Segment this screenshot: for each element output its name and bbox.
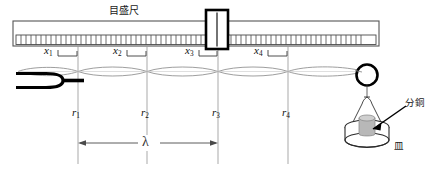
measuring-ruler — [13, 21, 379, 46]
figure-canvas — [0, 0, 438, 170]
label-x4: x4 — [254, 44, 263, 58]
label-x2: x2 — [113, 44, 122, 58]
node-guide-lines — [78, 46, 288, 164]
pulley — [355, 65, 378, 98]
label-x1: x1 — [44, 44, 53, 58]
x-measure-brackets — [58, 50, 287, 56]
standing-wave-experiment-figure: 目盛尺 x1 x2 x3 x4 r1 r2 r3 r4 λ 分銅 皿 — [0, 0, 438, 170]
weight-label: 分銅 — [405, 95, 425, 109]
brass-weight — [359, 115, 375, 136]
pan-label: 皿 — [394, 138, 404, 152]
ruler-cursor[interactable] — [206, 10, 228, 49]
vibrating-string — [18, 67, 362, 76]
label-r4: r4 — [282, 106, 290, 120]
label-r1: r1 — [72, 106, 80, 120]
ruler-title-label: 目盛尺 — [109, 2, 139, 17]
label-r3: r3 — [212, 106, 220, 120]
label-r2: r2 — [141, 106, 149, 120]
label-x3: x3 — [185, 44, 194, 58]
wavelength-label: λ — [142, 134, 149, 150]
